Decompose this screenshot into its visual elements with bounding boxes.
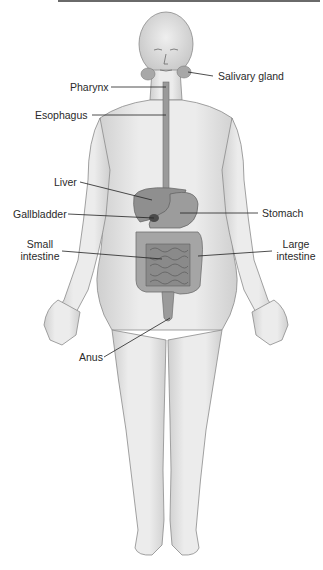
label-small-intestine-line2: intestine	[18, 250, 62, 262]
label-small-intestine-line1: Small	[18, 238, 62, 250]
label-salivary-gland: Salivary gland	[218, 70, 284, 82]
rectum-organ	[162, 292, 174, 321]
label-large-intestine-line1: Large	[274, 238, 318, 250]
leader-salivary	[188, 72, 213, 76]
small-intestine-organ	[146, 244, 190, 286]
label-esophagus: Esophagus	[35, 109, 88, 121]
label-stomach: Stomach	[262, 207, 303, 219]
anatomy-figure	[0, 0, 323, 570]
label-small-intestine: Small intestine	[18, 238, 62, 262]
label-gallbladder: Gallbladder	[13, 208, 67, 220]
label-large-intestine-line2: intestine	[274, 250, 318, 262]
label-anus: Anus	[79, 351, 103, 363]
right-leg	[168, 330, 222, 555]
label-pharynx: Pharynx	[70, 81, 109, 93]
left-leg	[112, 330, 166, 555]
label-liver: Liver	[54, 176, 77, 188]
label-large-intestine: Large intestine	[274, 238, 318, 262]
esophagus-organ	[163, 82, 169, 194]
